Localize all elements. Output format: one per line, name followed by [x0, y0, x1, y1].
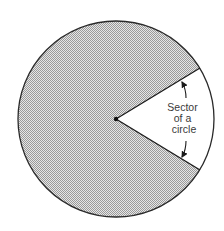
sector-label: Sector of a circle [167, 101, 200, 135]
arrow-down-icon [182, 141, 186, 157]
arrow-up-icon [182, 82, 186, 98]
sector-diagram: Sector of a circle [0, 0, 224, 231]
label-line-3: circle [172, 123, 197, 135]
center-point [114, 117, 118, 121]
